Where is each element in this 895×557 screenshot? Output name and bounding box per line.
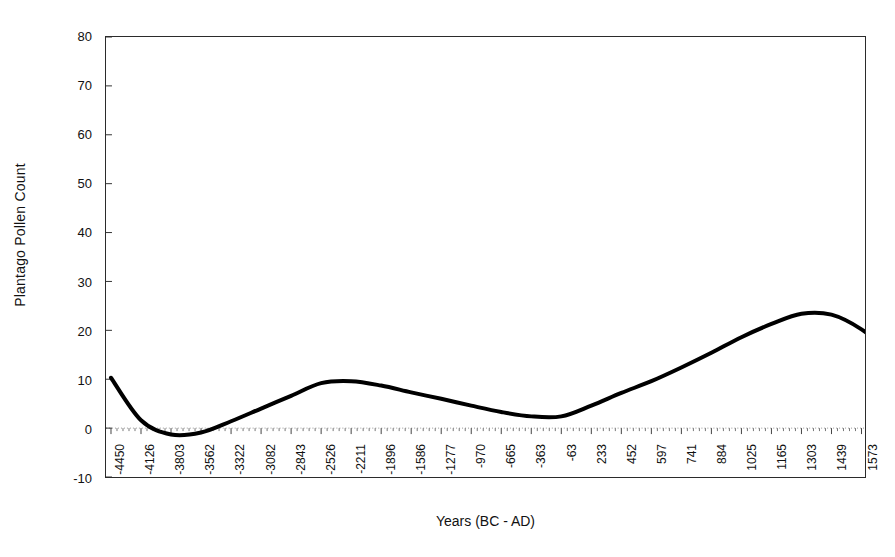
x-tick-label: -1896	[385, 444, 397, 475]
y-tick-label: 60	[78, 128, 92, 141]
y-tick-label: 0	[85, 422, 92, 435]
x-axis-tick-labels: -4450-4126-3803-3562-3322-3082-2843-2526…	[105, 442, 866, 512]
x-tick-label: 884	[716, 444, 728, 464]
y-tick-label: 40	[78, 226, 92, 239]
x-tick-label: 1303	[806, 444, 818, 471]
x-tick-label: -4450	[114, 444, 126, 475]
x-tick-label: 233	[596, 444, 608, 464]
x-tick-label: -3322	[234, 444, 246, 475]
x-tick-label: 1439	[836, 444, 848, 471]
x-tick-label: 741	[686, 444, 698, 464]
y-tick-label: 30	[78, 275, 92, 288]
x-tick-label: -2843	[295, 444, 307, 475]
y-axis-tickmarks	[106, 37, 112, 477]
y-tick-label: 10	[78, 373, 92, 386]
x-tick-label: 452	[626, 444, 638, 464]
x-axis-title: Years (BC - AD)	[105, 513, 866, 529]
x-tick-label: -3082	[265, 444, 277, 475]
plot-svg	[106, 37, 865, 477]
y-tick-label: -10	[73, 472, 92, 485]
y-tick-label: 70	[78, 79, 92, 92]
y-tick-label: 50	[78, 177, 92, 190]
x-tick-label: -363	[535, 444, 547, 468]
x-tick-label: -665	[505, 444, 517, 468]
x-tick-label: -2211	[355, 444, 367, 474]
y-tick-label: 20	[78, 324, 92, 337]
x-tick-label: 1025	[746, 444, 758, 471]
pollen-count-chart: Plantago Pollen Count -10010203040506070…	[0, 0, 895, 557]
x-axis-tickmarks	[111, 428, 865, 434]
x-tick-label: 1573	[867, 444, 879, 471]
y-axis-tick-labels: -1001020304050607080	[46, 0, 98, 557]
x-tick-label: -4126	[144, 444, 156, 475]
x-tick-label: -3803	[174, 444, 186, 475]
x-tick-label: 597	[656, 444, 668, 464]
x-tick-label: -63	[566, 444, 578, 461]
x-tick-label: -1277	[445, 444, 457, 475]
x-tick-label: 1165	[776, 444, 788, 470]
y-tick-label: 80	[78, 30, 92, 43]
x-tick-label: -2526	[325, 444, 337, 475]
pollen-count-line	[111, 313, 865, 436]
y-axis-title-text: Plantago Pollen Count	[12, 163, 28, 307]
x-tick-label: -970	[475, 444, 487, 468]
x-tick-label: -1586	[415, 444, 427, 475]
plot-area	[105, 36, 866, 478]
y-axis-title: Plantago Pollen Count	[0, 0, 40, 470]
x-tick-label: -3562	[204, 444, 216, 475]
